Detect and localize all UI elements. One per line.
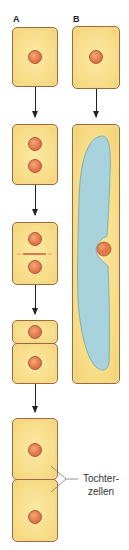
caption-line2: zellen bbox=[78, 485, 124, 498]
bracket-line-bottom bbox=[51, 479, 66, 492]
diagram-overlay bbox=[0, 0, 129, 550]
daughter-cells-label: Tochter- zellen bbox=[78, 472, 124, 498]
bracket-line-top bbox=[51, 466, 66, 479]
caption-line1: Tochter- bbox=[78, 472, 124, 485]
nucleus-highlight bbox=[99, 244, 105, 250]
